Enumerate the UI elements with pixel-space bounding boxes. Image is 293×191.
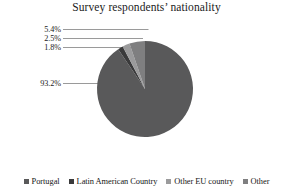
legend-label: Portugal xyxy=(32,177,60,186)
legend-label: Other EU country xyxy=(174,177,233,186)
chart-legend: Portugal Latin American Country Other EU… xyxy=(0,177,293,186)
pie-label-portugal: 93.2% xyxy=(13,79,61,88)
legend-swatch-icon xyxy=(243,179,248,184)
legend-item-latin-american-country[interactable]: Latin American Country xyxy=(69,177,158,186)
pie-label-latin-american: 1.8% xyxy=(13,43,61,52)
legend-item-portugal[interactable]: Portugal xyxy=(24,177,60,186)
legend-label: Other xyxy=(251,177,270,186)
legend-swatch-icon xyxy=(24,179,29,184)
pie-label-other: 5.4% xyxy=(13,25,61,34)
pie-chart-plot-area: 5.4% 2.5% 1.8% 93.2% xyxy=(0,0,293,191)
legend-item-other-eu-country[interactable]: Other EU country xyxy=(166,177,233,186)
legend-label: Latin American Country xyxy=(77,177,158,186)
pie-slice-portugal xyxy=(97,41,193,137)
pie-slices xyxy=(97,41,193,137)
legend-swatch-icon xyxy=(166,179,171,184)
pie-label-other-eu: 2.5% xyxy=(13,34,61,43)
pie-chart-figure: Survey respondents’ nationality xyxy=(0,0,293,191)
legend-item-other[interactable]: Other xyxy=(243,177,270,186)
legend-swatch-icon xyxy=(69,179,74,184)
